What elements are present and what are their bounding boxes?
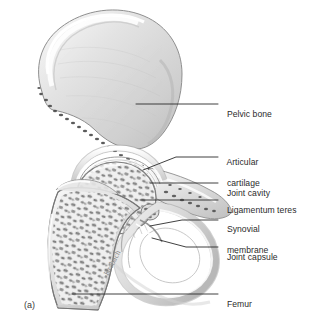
label-pelvic-bone: Pelvic bone bbox=[222, 99, 272, 119]
label-pelvic-bone-line1: Pelvic bone bbox=[227, 109, 272, 119]
hip-joint-illustration: Krabach bbox=[0, 0, 326, 332]
label-femur-line1: Femur bbox=[227, 299, 252, 309]
label-joint-capsule: Joint capsule bbox=[222, 242, 278, 262]
label-femur: Femur bbox=[222, 289, 252, 309]
label-ligamentum-teres: Ligamentum teres bbox=[222, 195, 296, 215]
label-joint-capsule-line1: Joint capsule bbox=[227, 252, 278, 262]
label-synovial-membrane-line1: Synovial bbox=[227, 224, 260, 234]
label-articular-cartilage-line1: Articular bbox=[226, 157, 258, 167]
figure-panel-id: (a) bbox=[24, 300, 35, 310]
